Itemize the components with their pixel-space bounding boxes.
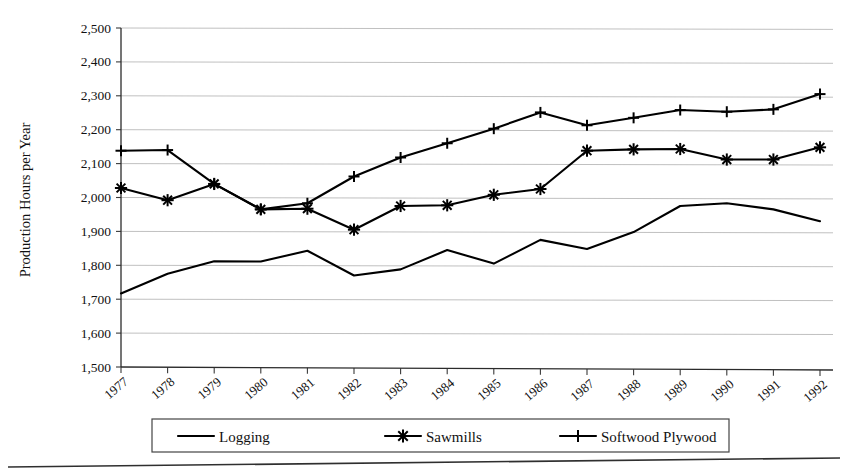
x-tick-label: 1982 [334, 375, 364, 403]
x-tick-label: 1983 [381, 375, 411, 403]
x-tick-label: 1985 [474, 375, 504, 403]
series-layer [115, 89, 826, 294]
y-tick-label: 1,700 [81, 292, 112, 307]
legend-item-sawmills[interactable]: Sawmills [385, 429, 482, 445]
y-tick-label: 2,500 [81, 21, 112, 36]
series-softwood-plywood [116, 89, 826, 215]
gridline [121, 265, 833, 266]
x-axis-line [121, 367, 833, 370]
y-tick-label: 2,000 [81, 190, 112, 205]
axis-ticks [116, 28, 820, 376]
gridline [121, 299, 833, 300]
y-tick-label: 2,300 [81, 88, 112, 103]
gridline [121, 231, 833, 232]
series-logging [121, 203, 820, 293]
page-rule [8, 458, 840, 467]
gridline [121, 28, 833, 29]
legend-item-softwood-plywood[interactable]: Softwood Plywood [560, 429, 717, 445]
gridline [121, 62, 833, 63]
legend-label: Softwood Plywood [601, 429, 717, 445]
x-tick-label: 1988 [614, 376, 644, 404]
x-tick-label: 1978 [148, 374, 178, 402]
y-tick-label: 1,600 [81, 326, 112, 341]
legend-label: Sawmills [426, 429, 482, 445]
y-tick-label: 2,400 [81, 54, 112, 69]
x-tick-label: 1981 [288, 375, 318, 403]
x-tick-label: 1987 [567, 375, 597, 404]
chart-page: Production Hours per Year 2,5002,4002,30… [0, 0, 848, 475]
x-tick-label: 1979 [195, 374, 225, 402]
line-chart: Production Hours per Year 2,5002,4002,30… [0, 0, 848, 475]
y-tick-label: 1,900 [81, 224, 112, 239]
x-tick-label: 1992 [800, 377, 830, 405]
series-line [121, 203, 820, 293]
gridlines [121, 28, 833, 335]
gridline [121, 96, 833, 97]
y-axis-labels: 2,5002,4002,3002,2002,1002,0001,9001,800… [81, 21, 112, 375]
legend-label: Logging [219, 429, 270, 445]
chart-legend: LoggingSawmillsSoftwood Plywood [152, 419, 729, 452]
gridline [121, 130, 833, 131]
gridline [121, 333, 833, 334]
y-tick-label: 2,100 [81, 156, 112, 171]
x-tick-label: 1991 [754, 377, 784, 405]
y-axis-title: Production Hours per Year [17, 123, 33, 278]
x-tick-label: 1977 [101, 373, 131, 402]
x-axis-labels: 1977197819791980198119821983198419851986… [101, 373, 830, 404]
x-tick-label: 1984 [428, 375, 458, 404]
x-tick-label: 1986 [521, 375, 551, 404]
series-line [121, 94, 820, 209]
x-tick-label: 1990 [707, 376, 737, 404]
x-tick-label: 1989 [661, 376, 691, 404]
series-line [121, 147, 820, 229]
y-tick-label: 1,800 [81, 258, 112, 273]
y-tick-label: 2,200 [81, 122, 112, 137]
y-tick-label: 1,500 [81, 360, 112, 375]
legend-item-logging[interactable]: Logging [178, 429, 270, 445]
x-tick-label: 1980 [241, 374, 271, 402]
